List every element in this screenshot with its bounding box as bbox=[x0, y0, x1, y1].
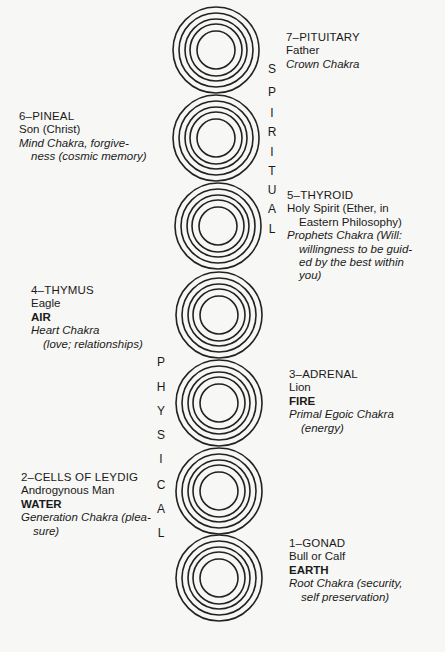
figure-name: Holy Spirit (Ether, in bbox=[287, 202, 412, 215]
vertical-letter: R bbox=[266, 125, 278, 139]
chakra-label-1: 1–GONAD Bull or Calf EARTH Root Chakra (… bbox=[289, 537, 403, 604]
figure-name: Son (Christ) bbox=[19, 123, 147, 136]
gland-name: 4–THYMUS bbox=[31, 284, 143, 297]
vertical-letter: I bbox=[266, 106, 278, 120]
element-name: EARTH bbox=[289, 564, 403, 577]
chakra-description: you) bbox=[287, 269, 412, 282]
vertical-letter: A bbox=[155, 502, 167, 516]
chakra-description: willingness to be guid- bbox=[287, 243, 412, 256]
chakra-label-3: 3–ADRENAL Lion FIRE Primal Egoic Chakra … bbox=[289, 368, 394, 435]
figure-note: Eastern Philosophy) bbox=[287, 216, 412, 229]
chakra-circle-6 bbox=[173, 95, 259, 181]
chakra-label-2: 2–CELLS OF LEYDIG Androgynous Man WATER … bbox=[21, 471, 151, 538]
chakra-name: Prophets Chakra (Will: bbox=[287, 229, 412, 242]
chakra-description: self preservation) bbox=[289, 591, 403, 604]
chakra-label-4: 4–THYMUS Eagle AIR Heart Chakra (love; r… bbox=[31, 284, 143, 351]
gland-name: 7–PITUITARY bbox=[286, 31, 360, 44]
element-name: WATER bbox=[21, 498, 151, 511]
chakra-circle-7 bbox=[173, 7, 259, 93]
vertical-letter: I bbox=[155, 452, 167, 466]
chakra-label-7: 7–PITUITARY Father Crown Chakra bbox=[286, 31, 360, 71]
vertical-letter: S bbox=[266, 62, 278, 76]
element-name: FIRE bbox=[289, 395, 394, 408]
chakra-circle-5 bbox=[175, 183, 261, 269]
vertical-letter: T bbox=[266, 164, 278, 178]
chakra-name: Generation Chakra (plea- bbox=[21, 511, 151, 524]
gland-name: 6–PINEAL bbox=[19, 110, 147, 123]
gland-name: 1–GONAD bbox=[289, 537, 403, 550]
chakra-label-5: 5–THYROID Holy Spirit (Ether, in Eastern… bbox=[287, 189, 412, 283]
vertical-letter: L bbox=[155, 526, 167, 540]
vertical-letter: P bbox=[155, 355, 167, 369]
gland-name: 5–THYROID bbox=[287, 189, 412, 202]
figure-name: Androgynous Man bbox=[21, 484, 151, 497]
chakra-description: (energy) bbox=[289, 422, 394, 435]
figure-name: Father bbox=[286, 44, 360, 57]
chakra-name: Primal Egoic Chakra bbox=[289, 408, 394, 421]
element-name: AIR bbox=[31, 311, 143, 324]
chakra-description: ness (cosmic memory) bbox=[19, 150, 147, 163]
figure-name: Bull or Calf bbox=[289, 550, 403, 563]
figure-name: Lion bbox=[289, 381, 394, 394]
vertical-letter: A bbox=[266, 202, 278, 216]
gland-name: 2–CELLS OF LEYDIG bbox=[21, 471, 151, 484]
vertical-letter: H bbox=[155, 380, 167, 394]
gland-name: 3–ADRENAL bbox=[289, 368, 394, 381]
vertical-letter: P bbox=[266, 85, 278, 99]
chakra-label-6: 6–PINEAL Son (Christ) Mind Chakra, forgi… bbox=[19, 110, 147, 164]
chakra-description: ed by the best within bbox=[287, 256, 412, 269]
vertical-letter: S bbox=[155, 428, 167, 442]
chakra-name: Crown Chakra bbox=[286, 58, 360, 71]
vertical-letter: U bbox=[266, 183, 278, 197]
chakra-circle-2 bbox=[176, 448, 262, 534]
vertical-letter: I bbox=[266, 145, 278, 159]
chakra-name: Root Chakra (security, bbox=[289, 577, 403, 590]
vertical-letter: L bbox=[266, 222, 278, 236]
chakra-name: Mind Chakra, forgive- bbox=[19, 137, 147, 150]
chakra-circle-1 bbox=[176, 535, 262, 621]
vertical-letter: Y bbox=[155, 404, 167, 418]
chakra-circle-3 bbox=[176, 360, 262, 446]
chakra-description: (love; relationships) bbox=[31, 338, 143, 351]
figure-name: Eagle bbox=[31, 297, 143, 310]
chakra-circle-4 bbox=[176, 272, 262, 358]
chakra-description: sure) bbox=[21, 525, 151, 538]
vertical-letter: C bbox=[155, 478, 167, 492]
chakra-name: Heart Chakra bbox=[31, 324, 143, 337]
